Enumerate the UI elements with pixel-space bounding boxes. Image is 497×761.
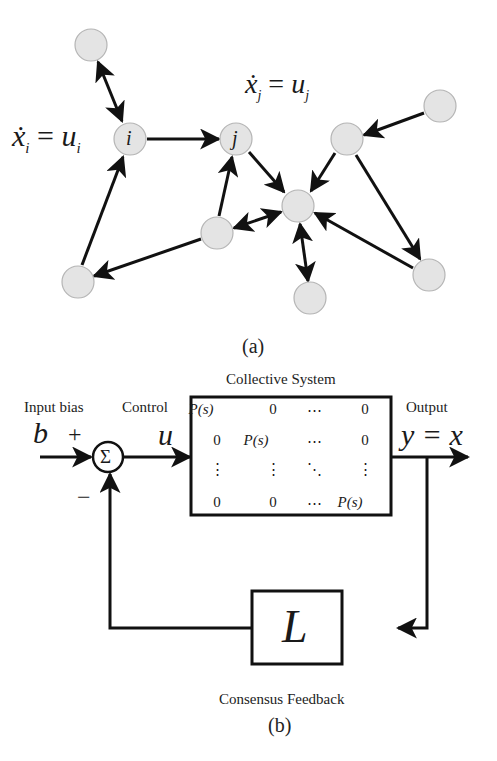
subscript-i: i [25,140,29,156]
control-label: Control [122,399,168,416]
input-bias-label: Input bias [24,399,84,416]
node-bottom [294,282,326,314]
edge-j-center [249,152,284,192]
plus-sign: + [68,421,82,448]
input-symbol-b: b [33,416,48,450]
matrix-cell-r1c1: P(s) [226,432,286,449]
matrix-cell-r0c0: P(s) [171,401,231,418]
xdot-j: ẋ [245,68,257,99]
node-topleft [75,29,107,61]
u-i: u [61,119,76,152]
edge-center-bottom [300,224,308,281]
edge-midleft-center [234,212,281,228]
output-symbol: y = x [401,418,463,452]
control-symbol-u: u [158,418,173,452]
feedback-path-right [398,457,427,628]
matrix-cell-r0c3: 0 [335,401,395,418]
node-i-label: i [126,127,132,150]
edge-midleft-j [219,157,232,216]
subscript-ui: i [76,140,80,156]
collective-system-title: Collective System [226,371,336,388]
matrix-cell-r3c3: P(s) [320,494,380,511]
node-topright [424,90,456,122]
edge-bottomleft-i [82,157,123,265]
consensus-feedback-label: Consensus Feedback [219,691,344,708]
edge-topleft-i [98,62,122,121]
matrix-cell-r3c0: 0 [187,494,247,511]
u-j: u [291,68,305,99]
caption-a: (a) [242,335,264,358]
equals-sign: = [268,68,284,99]
node-bottomright [413,259,445,291]
node-center [282,190,314,222]
node-midleft [201,217,233,249]
node-bottomleft [62,266,94,298]
edge-topright-upperright [364,113,424,135]
output-label: Output [406,399,448,416]
subscript-uj: j [305,88,309,103]
edge-upperright-center [311,153,335,191]
xdot-i: ẋ [12,119,25,152]
node-j-label: j [232,127,238,150]
matrix-cell-r2c3: ⋮ [335,460,395,478]
matrix-cell-r2c0: ⋮ [187,460,247,478]
node-j-equation: ẋj = uj [245,68,309,104]
equals-sign: = [37,119,54,152]
minus-sign: − [77,484,91,511]
edge-midleft-bottomleft [94,239,201,276]
edge-upperright-bottomright [356,155,420,259]
sigma-symbol: Σ [100,446,111,468]
subscript-j: j [257,88,261,103]
matrix-cell-r1c3: 0 [335,432,395,449]
node-upperright [331,123,363,155]
caption-b: (b) [268,714,291,737]
feedback-symbol-L: L [282,600,308,653]
node-i-equation: ẋi = ui [12,119,81,157]
